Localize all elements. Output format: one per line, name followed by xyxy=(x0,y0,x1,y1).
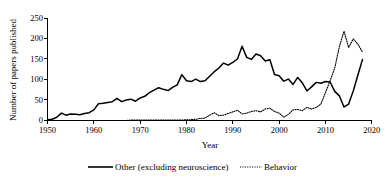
x-tick-label-2010: 2010 xyxy=(317,125,334,135)
y-axis xyxy=(44,18,48,120)
x-tick-label-1970: 1970 xyxy=(132,125,149,135)
x-axis-title: Year xyxy=(202,140,219,150)
series-line-behavior xyxy=(48,31,363,120)
x-tick-label-1990: 1990 xyxy=(224,125,241,135)
line-chart: Number of papers published 0 50 100 150 … xyxy=(0,0,385,181)
y-tick-label-250: 250 xyxy=(30,13,43,23)
y-tick-label-0: 0 xyxy=(39,115,43,125)
legend: Other (excluding neuroscience) Behavior xyxy=(88,162,297,172)
x-tick-label-1980: 1980 xyxy=(178,125,195,135)
legend-label-behavior: Behavior xyxy=(264,162,297,172)
x-tick-label-1950: 1950 xyxy=(39,125,56,135)
y-axis-title: Number of papers published xyxy=(8,18,18,121)
y-axis-title-group: Number of papers published xyxy=(8,18,18,121)
x-tick-label-2020: 2020 xyxy=(363,125,380,135)
x-tick-label-1960: 1960 xyxy=(85,125,102,135)
series-line-other xyxy=(48,46,363,119)
chart-figure: Number of papers published 0 50 100 150 … xyxy=(0,0,385,181)
legend-label-other: Other (excluding neuroscience) xyxy=(115,162,228,172)
y-tick-labels: 0 50 100 150 200 250 xyxy=(30,13,43,125)
y-tick-label-50: 50 xyxy=(35,95,44,105)
y-tick-label-100: 100 xyxy=(30,74,43,84)
y-tick-label-150: 150 xyxy=(30,54,43,64)
x-tick-label-2000: 2000 xyxy=(271,125,288,135)
x-tick-labels: 1950 1960 1970 1980 1990 2000 2010 2020 xyxy=(39,125,380,135)
y-tick-label-200: 200 xyxy=(30,33,43,43)
